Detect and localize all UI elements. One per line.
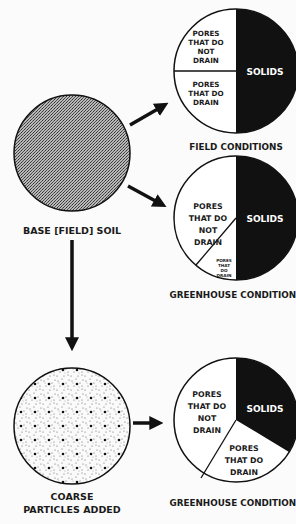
arrow-to-field-pie — [130, 106, 163, 125]
pie-field-conditions: SOLIDS PORES THAT DO NOT DRAIN PORES THA… — [174, 9, 296, 152]
drain-label: PORES THAT DO DRAIN — [225, 444, 264, 477]
coarse-soil-circle — [14, 368, 130, 484]
base-soil-circle — [14, 95, 130, 211]
svg-text:THAT DO: THAT DO — [188, 89, 223, 98]
svg-text:PORES: PORES — [192, 390, 222, 399]
pie-greenhouse-amended: SOLIDS PORES THAT DO NOT DRAIN PORES THA… — [169, 358, 296, 508]
svg-text:DRAIN: DRAIN — [193, 98, 219, 107]
solids-label: SOLIDS — [246, 404, 283, 414]
soil-pore-diagram: BASE [FIELD] SOIL SOLIDS PORES THAT DO N… — [0, 0, 296, 524]
svg-text:NOT: NOT — [199, 226, 218, 235]
solids-label: SOLIDS — [246, 214, 283, 224]
coarse-soil-label-2: PARTICLES ADDED — [23, 504, 121, 515]
svg-text:PORES: PORES — [193, 80, 220, 89]
pie-caption: GREENHOUSE CONDITIONS — [169, 290, 296, 300]
svg-text:PORES: PORES — [193, 202, 223, 211]
solids-label: SOLIDS — [246, 67, 283, 77]
svg-text:DRAIN: DRAIN — [216, 273, 231, 278]
base-soil-label: BASE [FIELD] SOIL — [23, 225, 121, 236]
pie-greenhouse-base: SOLIDS PORES THAT DO NOT DRAIN PORES THA… — [169, 156, 296, 300]
svg-text:DRAIN: DRAIN — [193, 56, 219, 65]
pie-caption: FIELD CONDITIONS — [189, 142, 283, 152]
coarse-soil-label-1: COARSE — [51, 491, 94, 502]
svg-text:PORES: PORES — [229, 444, 259, 453]
svg-text:DRAIN: DRAIN — [193, 426, 221, 435]
svg-text:PORES: PORES — [193, 29, 220, 38]
svg-text:THAT DO: THAT DO — [189, 214, 228, 223]
pie-caption: GREENHOUSE CONDITIONS — [169, 498, 296, 508]
svg-text:NOT: NOT — [198, 414, 217, 423]
base-soil: BASE [FIELD] SOIL — [14, 95, 130, 236]
svg-text:THAT DO: THAT DO — [225, 456, 264, 465]
drain-label: PORES THAT DO DRAIN — [188, 80, 223, 107]
svg-text:THAT DO: THAT DO — [188, 38, 223, 47]
svg-text:DRAIN: DRAIN — [230, 468, 258, 477]
svg-text:DRAIN: DRAIN — [194, 238, 222, 247]
svg-text:THAT DO: THAT DO — [188, 402, 227, 411]
amended-soil: COARSE PARTICLES ADDED — [14, 368, 130, 515]
svg-text:NOT: NOT — [197, 47, 214, 56]
arrow-to-greenhouse-pie — [128, 186, 161, 204]
